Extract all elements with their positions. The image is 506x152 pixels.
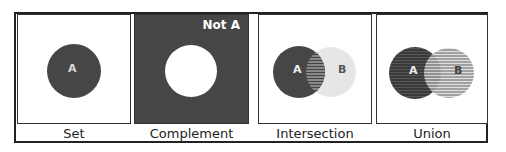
union-a-label: A: [409, 64, 418, 77]
union-b-circle: [424, 48, 474, 98]
set-a-label: A: [68, 62, 77, 75]
union-caption: Union: [376, 125, 488, 143]
intersection-panel: A B: [258, 14, 372, 124]
union-diagram: [377, 15, 488, 124]
intersection-a-label: A: [293, 63, 302, 76]
complement-hole-circle: [165, 45, 217, 97]
intersection-b-label: B: [338, 63, 346, 76]
set-caption: Set: [17, 125, 131, 143]
set-panel: A: [17, 14, 131, 124]
intersection-caption: Intersection: [258, 125, 372, 143]
union-panel: A B: [376, 14, 488, 124]
not-a-label: Not A: [203, 18, 241, 32]
intersection-diagram: [259, 15, 372, 124]
complement-caption: Complement: [134, 125, 249, 143]
union-b-label: B: [454, 64, 462, 77]
complement-panel: Not A: [134, 14, 249, 124]
